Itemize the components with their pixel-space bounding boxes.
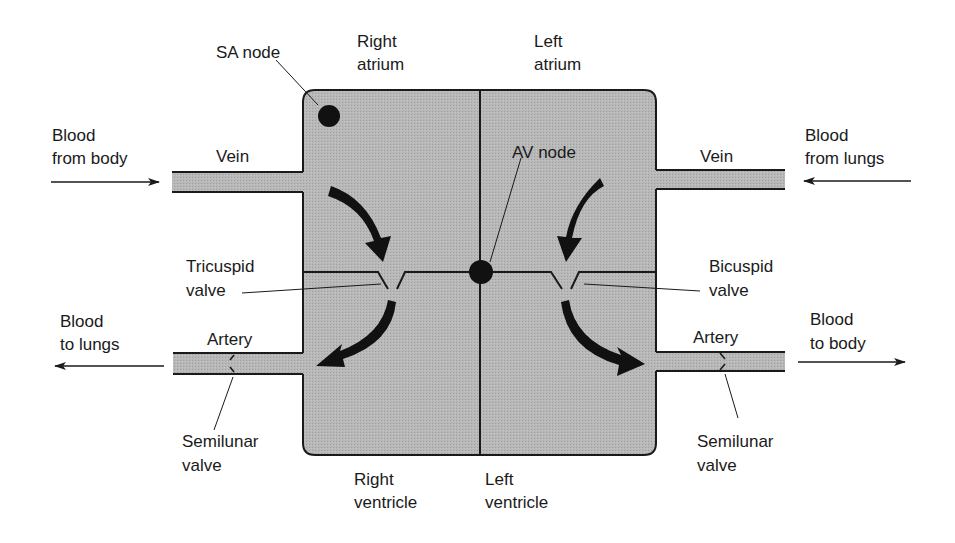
vein-right (652, 170, 785, 189)
artery-right (652, 352, 785, 371)
label-artery-right: Artery (693, 328, 739, 347)
label-sa-node: SA node (216, 43, 280, 62)
label-semilunar-left-2: valve (182, 456, 222, 475)
label-blood-from-lungs-2: from lungs (805, 149, 884, 168)
label-blood-to-body-2: to body (810, 334, 866, 353)
label-left-ventricle-2: ventricle (485, 493, 548, 512)
sa-node (318, 105, 340, 127)
label-blood-from-body-2: from body (52, 149, 128, 168)
label-semilunar-left: Semilunar (182, 432, 259, 451)
label-left-atrium: Left (534, 32, 563, 51)
label-left-atrium-2: atrium (534, 55, 581, 74)
vein-left (172, 172, 307, 192)
label-tricuspid: Tricuspid (186, 257, 254, 276)
label-semilunar-right: Semilunar (697, 432, 774, 451)
label-blood-to-lungs-2: to lungs (60, 335, 120, 354)
label-blood-to-lungs: Blood (60, 312, 103, 331)
label-right-ventricle: Right (354, 470, 394, 489)
label-vein-right: Vein (700, 147, 733, 166)
label-right-atrium: Right (357, 32, 397, 51)
label-artery-left: Artery (207, 330, 253, 349)
label-blood-to-body: Blood (810, 310, 853, 329)
label-bicuspid: Bicuspid (709, 257, 773, 276)
label-right-atrium-2: atrium (357, 55, 404, 74)
label-semilunar-right-2: valve (697, 456, 737, 475)
label-bicuspid-2: valve (709, 281, 749, 300)
artery-left (173, 353, 307, 374)
label-left-ventricle: Left (485, 470, 514, 489)
heart-diagram: SA node Right atrium Left atrium Blood f… (0, 0, 955, 543)
label-tricuspid-2: valve (186, 281, 226, 300)
label-right-ventricle-2: ventricle (354, 493, 417, 512)
label-vein-left: Vein (216, 147, 249, 166)
label-blood-from-lungs: Blood (805, 126, 848, 145)
label-blood-from-body: Blood (52, 126, 95, 145)
av-node (469, 260, 493, 284)
label-av-node: AV node (512, 143, 576, 162)
